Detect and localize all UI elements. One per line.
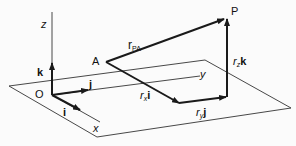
y-axis-label: y bbox=[200, 69, 206, 80]
point-p-label: P bbox=[231, 6, 238, 17]
rz-k-label: rzk bbox=[233, 56, 246, 68]
r-pa-vector bbox=[106, 19, 224, 62]
rx-unit: i bbox=[147, 89, 150, 101]
vector-diagram: z y x O k j i A P rPA rxi ryj rzk bbox=[0, 0, 296, 146]
rx-i-label: rxi bbox=[140, 90, 150, 102]
r-pa-sub: PA bbox=[132, 45, 141, 52]
j-label: j bbox=[89, 79, 92, 90]
point-a-label: A bbox=[92, 56, 99, 67]
ry-unit: j bbox=[203, 106, 206, 118]
r-pa-label: rPA bbox=[128, 39, 141, 52]
rz-unit: k bbox=[240, 55, 246, 67]
ry-j-vector bbox=[179, 97, 226, 103]
origin-label: O bbox=[35, 89, 44, 100]
k-label: k bbox=[37, 67, 43, 78]
ry-j-label: ryj bbox=[196, 107, 206, 119]
j-unit-vector bbox=[52, 90, 88, 95]
i-label: i bbox=[63, 107, 66, 118]
x-axis-label: x bbox=[93, 123, 99, 134]
z-axis-label: z bbox=[41, 19, 47, 30]
